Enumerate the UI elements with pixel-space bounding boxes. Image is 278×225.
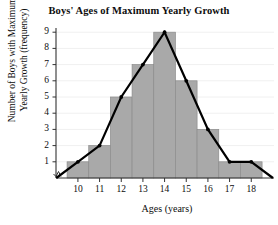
x-tick-label: 15 xyxy=(176,185,196,195)
x-axis-ticks xyxy=(78,178,251,182)
y-tick-label: 6 xyxy=(35,76,49,86)
x-tick-label: 18 xyxy=(241,185,261,195)
x-tick-label: 17 xyxy=(220,185,240,195)
x-tick-label: 12 xyxy=(111,185,131,195)
bar-series xyxy=(67,32,262,178)
x-tick-label: 16 xyxy=(198,185,218,195)
y-tick-label: 9 xyxy=(35,27,49,37)
x-tick-label: 10 xyxy=(68,185,88,195)
y-tick-label: 5 xyxy=(35,92,49,102)
y-tick-label: 4 xyxy=(35,108,49,118)
x-tick-label: 11 xyxy=(90,185,110,195)
y-tick-label: 8 xyxy=(35,43,49,53)
y-tick-label: 3 xyxy=(35,124,49,134)
x-tick-label: 13 xyxy=(133,185,153,195)
y-tick-label: 2 xyxy=(35,141,49,151)
x-tick-label: 14 xyxy=(155,185,175,195)
y-tick-label: 7 xyxy=(35,60,49,70)
chart-page: Boys' Ages of Maximum Yearly Growth Numb… xyxy=(0,0,278,225)
y-tick-label: 1 xyxy=(35,157,49,167)
